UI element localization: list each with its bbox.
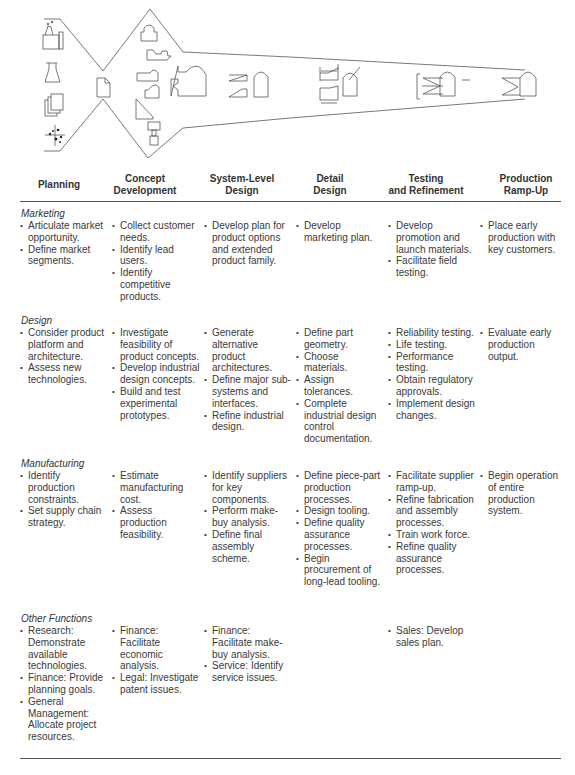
header-concept-development: Concept Development [105,173,185,197]
cell-manufacturing-detail: Define piece-part production processes.D… [296,470,384,588]
activity-item: Assess production feasibility. [112,505,200,540]
activity-item: Reliability testing. [388,327,476,339]
cell-other-functions-testing: Sales: Develop sales plan. [388,625,476,649]
activity-item: Collect customer needs. [112,220,200,244]
activity-item: Identify production constraints. [20,470,108,505]
activity-item: Sales: Develop sales plan. [388,625,476,649]
activity-item: Identify lead users. [112,244,200,268]
cell-manufacturing-concept: Estimate manufacturing cost.Assess produ… [112,470,200,541]
activity-item: Develop plan for product options and ext… [204,220,292,267]
header-line: System-Level [197,173,287,185]
development-funnel-diagram [0,0,575,160]
detail-tolerance-icon [320,64,360,103]
activity-list: Investigate feasibility of product conce… [112,327,200,421]
header-line: Ramp-Up [488,185,564,197]
activity-item: Finance: Facilitate make-buy analysis. [204,625,292,660]
activity-item: Refine industrial design. [204,410,292,434]
activity-item: Generate alternative product architectur… [204,327,292,374]
header-testing-refinement: Testing and Refinement [378,173,474,197]
activity-item: Obtain regulatory approvals. [388,374,476,398]
cell-manufacturing-planning: Identify production constraints.Set supp… [20,470,108,529]
cell-design-detail: Define part geometry.Choose materials.As… [296,327,384,445]
activity-item: Set supply chain strategy. [20,505,108,529]
activity-list: Estimate manufacturing cost.Assess produ… [112,470,200,541]
header-line: Concept [105,173,185,185]
cell-manufacturing-system: Identify suppliers for key components.Pe… [204,470,292,564]
activity-item: Identify suppliers for key components. [204,470,292,505]
cell-marketing-planning: Articulate market opportunity.Define mar… [20,220,108,267]
header-production-ramp-up: Production Ramp-Up [488,173,564,197]
activity-item: Facilitate field testing. [388,255,476,279]
activity-list: Finance: Facilitate make-buy analysis.Se… [204,625,292,684]
activity-item: Place early production with key customer… [480,220,564,255]
cell-design-rampup: Evaluate early production output. [480,327,564,362]
section-title-manufacturing: Manufacturing [21,458,84,469]
cell-manufacturing-testing: Facilitate supplier ramp-up.Refine fabri… [388,470,476,576]
cell-manufacturing-rampup: Begin operation of entire production sys… [480,470,564,517]
header-line: Development [105,185,185,197]
cell-other-functions-planning: Research: Demonstrate available technolo… [20,625,108,743]
scatter-plot-icon [45,125,65,146]
activity-list: Finance: Facilitate economic analysis.Le… [112,625,200,696]
activity-item: Consider product platform and architectu… [20,327,108,362]
bottom-rule [20,758,561,759]
activity-item: Develop industrial design concepts. [112,362,200,386]
activity-item: Implement design changes. [388,398,476,422]
activity-item: Begin operation of entire production sys… [480,470,564,517]
header-line: Detail [290,173,370,185]
header-line: Design [197,185,287,197]
header-line: and Refinement [378,185,474,197]
cell-marketing-testing: Develop promotion and launch materials.F… [388,220,476,279]
cell-design-concept: Investigate feasibility of product conce… [112,327,200,421]
section-title-marketing: Marketing [21,208,65,219]
system-split-icon [229,72,268,97]
factory-icon [43,21,63,49]
activity-list: Develop plan for product options and ext… [204,220,292,267]
cell-marketing-rampup: Place early production with key customer… [480,220,564,255]
activity-item: Complete industrial design control docum… [296,398,384,445]
header-planning: Planning [20,179,98,191]
activity-item: Perform make-buy analysis. [204,505,292,529]
cell-other-functions-concept: Finance: Facilitate economic analysis.Le… [112,625,200,696]
activity-item: Assess new technologies. [20,362,108,386]
activity-list: Define piece-part production processes.D… [296,470,384,588]
cell-design-planning: Consider product platform and architectu… [20,327,108,386]
document-icon [97,78,110,97]
activity-item: Refine quality assurance processes. [388,541,476,576]
activity-item: Refine fabrication and assembly processe… [388,494,476,529]
header-line: Planning [20,179,98,191]
activity-item: Life testing. [388,339,476,351]
cell-marketing-detail: Develop marketing plan. [296,220,384,244]
activity-item: Performance testing. [388,351,476,375]
activity-list: Identify production constraints.Set supp… [20,470,108,529]
activity-list: Facilitate supplier ramp-up.Refine fabri… [388,470,476,576]
flask-icon [45,63,60,82]
header-line: Production [488,173,564,185]
activity-item: Build and test experimental prototypes. [112,386,200,421]
cell-design-testing: Reliability testing.Life testing.Perform… [388,327,476,421]
activity-item: Define final assembly scheme. [204,529,292,564]
activity-list: Develop promotion and launch materials.F… [388,220,476,279]
section-title-design: Design [21,315,52,326]
activity-item: Choose materials. [296,351,384,375]
activity-item: Define piece-part production processes. [296,470,384,505]
testing-fixture-icon [417,72,470,99]
activity-list: Evaluate early production output. [480,327,564,362]
activity-item: Design tooling. [296,505,384,517]
header-rule [20,201,561,202]
activity-item: Identify competitive products. [112,267,200,302]
activity-list: Place early production with key customer… [480,220,564,255]
activity-item: Evaluate early production output. [480,327,564,362]
concept-parts-icon [136,25,171,145]
activity-list: Generate alternative product architectur… [204,327,292,433]
activity-list: Research: Demonstrate available technolo… [20,625,108,743]
activity-list: Articulate market opportunity.Define mar… [20,220,108,267]
activity-item: Facilitate supplier ramp-up. [388,470,476,494]
activity-item: Research: Demonstrate available technolo… [20,625,108,672]
activity-list: Sales: Develop sales plan. [388,625,476,649]
activity-list: Collect customer needs.Identify lead use… [112,220,200,303]
assembled-part-icon [171,66,206,96]
production-part-icon [502,72,536,96]
activity-item: Define quality assurance processes. [296,517,384,552]
activity-item: Articulate market opportunity. [20,220,108,244]
